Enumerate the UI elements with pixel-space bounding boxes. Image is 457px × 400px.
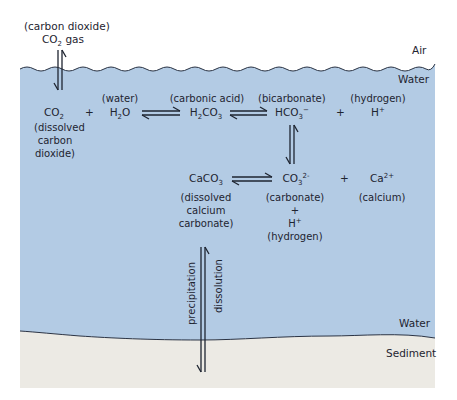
h2o-formula: H2O bbox=[100, 106, 140, 119]
caco3-note: (dissolved calcium carbonate) bbox=[178, 191, 234, 230]
ca-formula: Ca2+ bbox=[362, 172, 402, 185]
plus-sign-2: + bbox=[336, 106, 345, 119]
sediment-label: Sediment bbox=[386, 347, 436, 360]
caco3-formula: CaCO3 bbox=[183, 172, 229, 185]
h2co3-name: (carbonic acid) bbox=[167, 92, 247, 105]
co3-note: (carbonate) + H+ (hydrogen) bbox=[262, 191, 328, 243]
gas-name: (carbon dioxide) bbox=[24, 20, 102, 33]
co2-dissolved-formula: CO2 bbox=[35, 106, 73, 119]
co3-formula: CO32- bbox=[276, 172, 316, 185]
hydrogen-formula: H+ bbox=[360, 106, 396, 119]
precipitation-label: precipitation bbox=[186, 262, 197, 325]
water-top-label: Water bbox=[398, 73, 429, 86]
hydrogen-name: (hydrogen) bbox=[350, 92, 406, 105]
hco3-name: (bicarbonate) bbox=[258, 92, 324, 105]
calcium-name: (calcium) bbox=[354, 191, 410, 204]
plus-sign-3: + bbox=[340, 172, 349, 185]
water-bottom-label: Water bbox=[399, 317, 430, 330]
dissolution-label: dissolution bbox=[213, 259, 224, 313]
air-label: Air bbox=[412, 44, 426, 57]
carbonate-equilibrium-diagram: Air Water Water Sediment (carbon dioxide… bbox=[0, 0, 457, 400]
h2co3-formula: H2CO3 bbox=[183, 106, 229, 119]
hco3-formula: HCO3− bbox=[268, 106, 316, 119]
h2o-name: (water) bbox=[100, 92, 140, 105]
gas-formula: CO2 gas bbox=[24, 33, 102, 46]
plus-sign-1: + bbox=[85, 106, 94, 119]
co2-dissolved-note: (dissolved carbon dioxide) bbox=[34, 121, 76, 160]
